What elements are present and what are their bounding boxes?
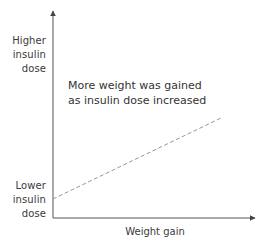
y-label-high-line-2: insulin (12, 48, 46, 62)
annotation-line-1: More weight was gained (68, 78, 228, 93)
y-label-low-line-3: dose (13, 207, 46, 221)
y-label-low-line-1: Lower (13, 179, 46, 193)
annotation-line-2: as insulin dose increased (68, 93, 228, 108)
x-axis-label: Weight gain (100, 225, 210, 239)
y-label-high-line-3: dose (12, 62, 46, 76)
y-axis-label-low: Lower insulin dose (13, 179, 46, 221)
y-label-low-line-2: insulin (13, 193, 46, 207)
y-label-high-line-1: Higher (12, 34, 46, 48)
y-axis-label-high: Higher insulin dose (12, 34, 46, 76)
trend-line (53, 118, 221, 199)
chart-annotation: More weight was gained as insulin dose i… (60, 78, 228, 108)
